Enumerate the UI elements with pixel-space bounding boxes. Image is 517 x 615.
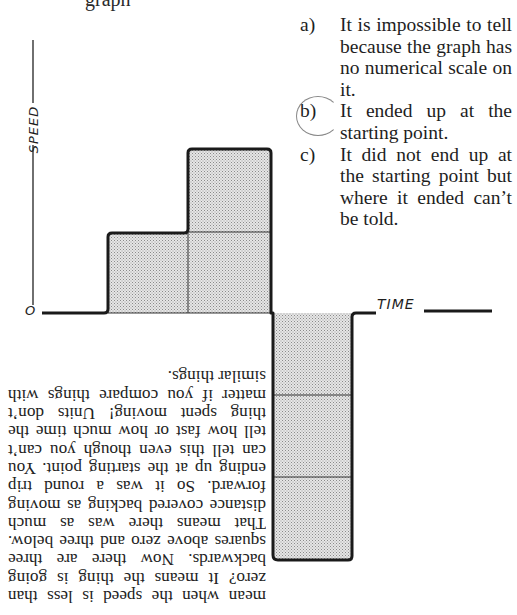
- speed-axis-label: SPEED: [26, 105, 41, 155]
- bar-negative-3-squares: [273, 313, 353, 560]
- bar-2-squares: [188, 149, 271, 313]
- time-axis-label: TIME: [377, 296, 415, 312]
- bar-1-square: [108, 233, 188, 313]
- upside-down-answer-text: mean when the speed is less than zero? I…: [8, 367, 266, 605]
- origin-label: O: [25, 303, 35, 318]
